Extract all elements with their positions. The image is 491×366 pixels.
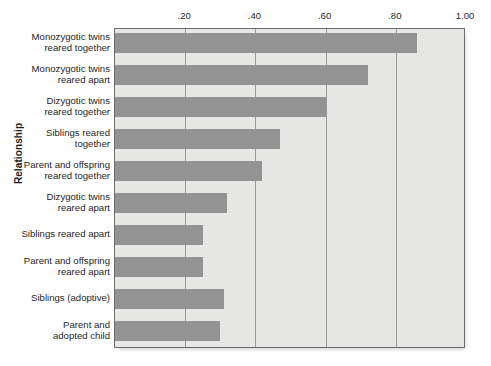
y-axis-category-label: Monozygotic twinsreared apart [8, 63, 110, 85]
category-label-line: together [8, 138, 110, 149]
category-label-line: reared together [8, 42, 110, 53]
y-axis-category-label: Siblings rearedtogether [8, 127, 110, 149]
category-label-line: Siblings reared apart [8, 228, 110, 239]
y-axis-category-label: Parent and offspringreared apart [8, 255, 110, 277]
y-axis-category-label: Siblings reared apart [8, 228, 110, 239]
x-axis-tick-label: .40 [248, 10, 261, 21]
category-label-line: Dizygotic twins [8, 95, 110, 106]
category-label-line: reared apart [8, 202, 110, 213]
category-label-line: Siblings reared [8, 127, 110, 138]
y-axis-category-label: Siblings (adoptive) [8, 292, 110, 303]
category-label-line: Siblings (adoptive) [8, 292, 110, 303]
plot-area [114, 28, 465, 348]
bar [115, 129, 280, 149]
bar-chart: Relationship .20.40.60.801.00 Monozygoti… [0, 0, 491, 366]
y-axis-category-label: Parent andadopted child [8, 319, 110, 341]
bar [115, 161, 262, 181]
y-axis-category-labels: Monozygotic twinsreared togetherMonozygo… [8, 28, 110, 348]
x-axis-tick-label: .60 [318, 10, 331, 21]
category-label-line: Parent and offspring [8, 255, 110, 266]
category-label-line: reared together [8, 106, 110, 117]
category-label-line: adopted child [8, 330, 110, 341]
category-label-line: Dizygotic twins [8, 191, 110, 202]
category-label-line: reared together [8, 170, 110, 181]
x-axis-tick-label: .80 [388, 10, 401, 21]
bar [115, 193, 227, 213]
x-axis-tick-labels: .20.40.60.801.00 [114, 10, 467, 26]
y-axis-category-label: Parent and offspringreared together [8, 159, 110, 181]
bar [115, 33, 417, 53]
category-label-line: Parent and offspring [8, 159, 110, 170]
gridline [396, 29, 397, 347]
bar [115, 65, 368, 85]
category-label-line: reared apart [8, 266, 110, 277]
x-axis-tick-label: 1.00 [456, 10, 475, 21]
bar [115, 225, 203, 245]
category-label-line: Parent and [8, 319, 110, 330]
category-label-line: Monozygotic twins [8, 63, 110, 74]
y-axis-category-label: Dizygotic twinsreared together [8, 95, 110, 117]
bar [115, 97, 326, 117]
category-label-line: Monozygotic twins [8, 31, 110, 42]
bar [115, 321, 220, 341]
category-label-line: reared apart [8, 74, 110, 85]
y-axis-category-label: Monozygotic twinsreared together [8, 31, 110, 53]
bar [115, 289, 224, 309]
plot-inner [115, 29, 464, 347]
x-axis-tick-label: .20 [178, 10, 191, 21]
y-axis-category-label: Dizygotic twinsreared apart [8, 191, 110, 213]
bar [115, 257, 203, 277]
